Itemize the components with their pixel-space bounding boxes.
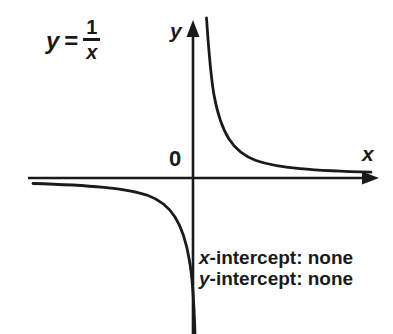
fraction-numerator: 1 (84, 17, 99, 38)
y-intercept-text: -intercept: none (210, 268, 354, 289)
curve-branch-quadrant-3 (33, 184, 195, 334)
x-intercept-variable: x (199, 247, 210, 268)
fraction-denominator: x (84, 41, 99, 62)
equation-fraction: 1 x (83, 17, 100, 62)
equation-lhs: y (46, 29, 59, 53)
x-intercept-annotation: x-intercept: none (199, 248, 353, 269)
y-axis-label: y (170, 20, 182, 41)
y-intercept-annotation: y-intercept: none (199, 269, 353, 290)
curve-branch-quadrant-1 (207, 18, 372, 172)
x-intercept-text: -intercept: none (210, 247, 354, 268)
graph-figure: y = 1 x y x 0 x-intercept: none y-interc… (0, 0, 393, 334)
equation-equals-sign: = (64, 29, 78, 53)
intercept-annotations: x-intercept: none y-intercept: none (199, 248, 353, 289)
y-intercept-variable: y (199, 268, 210, 289)
origin-label: 0 (169, 148, 181, 170)
x-axis-label: x (362, 143, 374, 164)
x-axis (28, 172, 379, 185)
equation-label: y = 1 x (46, 18, 100, 63)
